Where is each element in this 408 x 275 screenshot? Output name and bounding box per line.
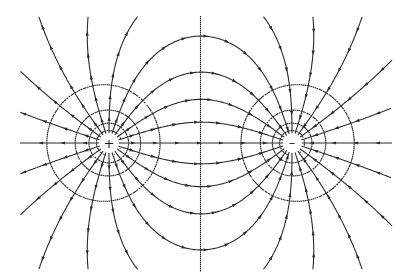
arrow-icon [232,79,237,83]
arrow-icon [70,197,74,202]
arrow-icon [132,78,136,83]
arrow-icon [299,166,302,171]
arrow-icon [278,235,281,240]
arrow-icon [42,163,47,166]
arrow-icon [125,250,129,255]
arrow-icon [84,148,89,151]
arrow-icon [59,216,63,221]
arrow-icon [114,118,117,123]
arrow-icon [331,141,336,144]
arrow-icon [42,25,45,30]
arrow-icon [212,211,217,214]
arrow-icon [122,97,125,102]
arrow-icon [286,154,289,159]
arrow-icon [101,118,104,123]
arrow-icon [108,116,111,121]
arrow-icon [101,163,104,168]
arrow-icon [116,51,119,56]
arrow-icon [169,78,174,81]
negative-charge: – [283,134,301,152]
arrow-icon [305,94,308,99]
arrow-icon [151,128,156,131]
arrow-icon [355,119,360,122]
arrow-icon [269,86,272,91]
arrow-icon [269,195,272,200]
arrow-icon [278,46,281,51]
arrow-icon [108,165,111,170]
dipole-field-diagram: + – [0,0,408,275]
arrow-icon [59,65,63,70]
arrow-icon [21,113,26,116]
arrow-icon [312,29,315,34]
negative-charge-label: – [289,135,296,150]
arrow-icon [290,111,293,116]
arrow-icon [60,141,65,144]
field-line [39,151,103,269]
field-line [39,17,103,135]
arrow-icon [338,67,342,72]
arrow-icon [348,48,351,53]
arrow-icon [144,116,149,120]
positive-charge: + [100,134,118,152]
arrow-icon [237,158,242,161]
arrow-icon [241,141,246,144]
arrow-icon [42,256,45,261]
arrow-icon [263,141,268,144]
arrow-icon [305,187,308,192]
arrow-icon [70,84,74,89]
field-lines [20,17,392,270]
arrow-icon [84,135,89,138]
arrow-icon [194,162,199,165]
arrow-icon [63,128,68,131]
positive-charge-label: + [104,136,115,151]
arrow-icon [164,177,169,180]
arrow-icon [82,141,87,144]
equipotential-lines [47,16,354,272]
arrow-icon [181,38,186,41]
arrow-icon [224,243,229,246]
arrow-icon [356,254,359,259]
arrow-icon [131,141,136,144]
arrow-icon [228,103,233,106]
arrow-icon [375,141,380,144]
arrow-icon [376,111,381,114]
arrow-icon [95,185,98,190]
field-line [298,151,362,269]
field-line [264,17,293,133]
arrow-icon [327,87,331,92]
arrow-icon [269,255,273,260]
arrow-icon [175,141,180,144]
arrow-icon [21,170,26,173]
arrow-icon [50,236,53,241]
field-line [300,149,392,226]
arrow-icon [327,195,331,200]
arrow-icon [114,163,117,168]
arrow-icon [86,250,89,255]
arrow-icon [194,121,199,124]
arrow-icon [132,203,136,208]
arrow-icon [219,141,224,144]
arrow-icon [290,170,293,175]
arrow-icon [228,180,233,183]
arrow-icon [334,126,339,129]
arrow-icon [224,39,229,42]
field-line [300,60,392,137]
arrow-icon [122,184,125,189]
arrow-icon [42,120,47,123]
arrow-icon [355,164,360,167]
field-line [264,153,293,269]
arrow-icon [313,150,318,153]
arrow-icon [312,253,315,258]
arrow-icon [164,106,169,109]
arrow-icon [125,31,129,36]
arrow-icon [86,31,89,36]
arrow-icon [278,175,281,180]
arrow-icon [232,203,237,207]
arrow-icon [299,115,302,120]
arrow-icon [116,230,119,235]
arrow-icon [181,245,186,248]
arrow-icon [144,167,149,171]
arrow-icon [348,233,351,238]
arrow-icon [151,155,156,158]
arrow-icon [63,155,68,158]
